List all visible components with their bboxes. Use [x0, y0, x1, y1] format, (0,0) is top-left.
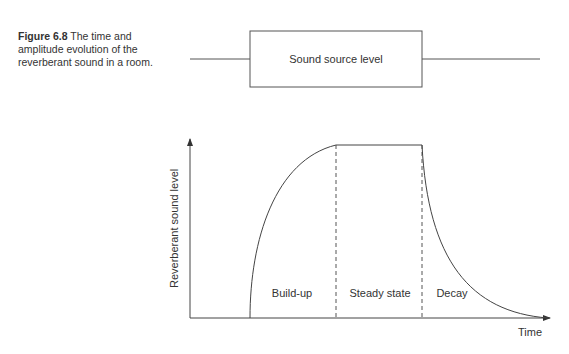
phase-label-decay: Decay — [436, 287, 468, 299]
phase-label-steady: Steady state — [349, 287, 410, 299]
source-box-label: Sound source level — [289, 53, 383, 65]
y-axis-label: Reverberant sound level — [168, 169, 180, 288]
sound-source-block: Sound source level — [190, 31, 540, 87]
reverberation-diagram: Sound source level Reverberant sound lev… — [0, 0, 569, 354]
x-axis-label: Time — [518, 326, 542, 338]
phase-label-buildup: Build-up — [272, 287, 312, 299]
